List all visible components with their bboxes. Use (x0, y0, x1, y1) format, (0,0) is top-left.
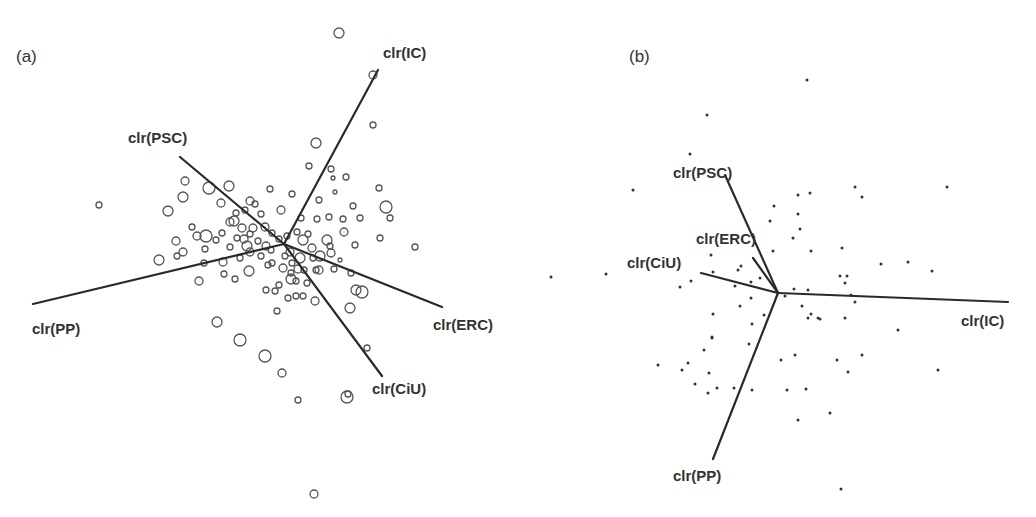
data-point (605, 273, 608, 276)
data-point (300, 293, 306, 299)
data-point (807, 289, 810, 292)
data-point (847, 371, 850, 374)
data-point (326, 214, 332, 220)
data-point (734, 285, 737, 288)
variable-label: clr(PP) (32, 320, 80, 337)
data-point (819, 318, 822, 321)
panel-a-biplot: (a) clr(IC)clr(PSC)clr(PP)clr(ERC)clr(Ci… (16, 28, 493, 498)
data-point (657, 364, 660, 367)
data-point (836, 359, 839, 362)
data-point (340, 228, 348, 236)
data-point (801, 305, 804, 308)
variable-ray (180, 157, 284, 244)
data-point (308, 244, 316, 252)
data-point (733, 387, 736, 390)
data-point (769, 220, 772, 223)
data-point (773, 205, 776, 208)
data-point (267, 186, 273, 192)
panel-b-biplot: (b) clr(PSC)clr(ERC)clr(CiU)clr(IC)clr(P… (550, 47, 1009, 491)
data-point (716, 387, 719, 390)
data-point (338, 258, 342, 262)
data-point (931, 270, 934, 273)
data-point (311, 297, 319, 305)
data-point (690, 280, 693, 283)
variable-label: clr(PSC) (673, 164, 732, 181)
data-point (377, 235, 383, 241)
data-point (202, 246, 208, 252)
data-point (227, 244, 233, 250)
data-point (739, 305, 742, 308)
data-point (376, 185, 382, 191)
data-point (259, 350, 271, 362)
data-point (234, 235, 240, 241)
data-point (712, 313, 715, 316)
data-point (750, 281, 753, 284)
data-point (793, 288, 796, 291)
variable-label: clr(IC) (383, 44, 426, 61)
data-point (751, 389, 754, 392)
panel-a-points (96, 28, 418, 498)
data-point (357, 215, 363, 221)
data-point (340, 216, 346, 222)
data-point (370, 122, 376, 128)
variable-ray (713, 293, 778, 459)
data-point (807, 317, 810, 320)
data-point (880, 263, 883, 266)
data-point (316, 197, 322, 203)
data-point (897, 329, 900, 332)
data-point (907, 261, 910, 264)
data-point (263, 287, 269, 293)
data-point (846, 275, 849, 278)
data-point (861, 196, 864, 199)
variable-label: clr(CiU) (372, 380, 426, 397)
data-point (327, 249, 335, 257)
data-point (681, 369, 684, 372)
data-point (780, 359, 783, 362)
data-point (304, 280, 310, 286)
data-point (806, 79, 809, 82)
data-point (712, 271, 715, 274)
data-point (154, 255, 164, 265)
data-point (794, 354, 797, 357)
data-point (189, 224, 195, 230)
data-point (854, 301, 857, 304)
data-point (350, 203, 356, 209)
data-point (272, 288, 278, 294)
data-point (305, 231, 311, 237)
data-point (799, 228, 802, 231)
data-point (748, 343, 751, 346)
data-point (797, 194, 800, 197)
data-point (412, 244, 418, 250)
data-point (232, 276, 238, 282)
data-point (234, 334, 246, 346)
data-point (328, 166, 334, 172)
data-point (946, 186, 949, 189)
data-point (679, 286, 682, 289)
data-point (343, 174, 349, 180)
data-point (829, 412, 832, 415)
variable-label: clr(ERC) (696, 230, 756, 247)
data-point (195, 277, 203, 285)
variable-label: clr(PP) (673, 467, 721, 484)
data-point (707, 392, 710, 395)
panel-b-axis-labels: clr(PSC)clr(ERC)clr(CiU)clr(IC)clr(PP) (627, 164, 1004, 484)
data-point (163, 206, 173, 216)
data-point (810, 250, 813, 253)
data-point (274, 308, 280, 314)
data-point (217, 199, 225, 207)
data-point (221, 271, 227, 277)
data-point (285, 295, 291, 301)
data-point (96, 202, 102, 208)
data-point (809, 192, 812, 195)
variable-ray (778, 293, 1008, 302)
data-point (238, 224, 246, 232)
data-point (276, 282, 282, 288)
panel-a-rays (33, 70, 442, 376)
data-point (797, 213, 800, 216)
data-point (311, 138, 321, 148)
data-point (249, 224, 257, 232)
data-point (694, 383, 697, 386)
data-point (219, 230, 225, 236)
data-point (345, 303, 355, 313)
data-point (854, 186, 857, 189)
